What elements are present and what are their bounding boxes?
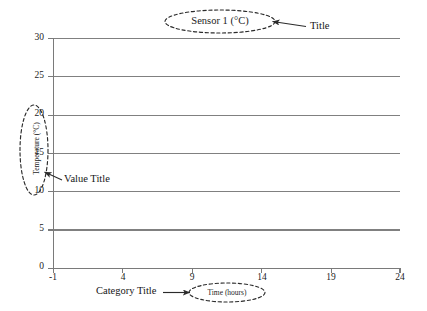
value-title-callout-arrow <box>45 172 63 180</box>
value-title-highlight-ellipse <box>20 105 48 195</box>
title-highlight-ellipse <box>165 10 275 33</box>
category-title-callout-label: Category Title <box>96 285 156 296</box>
value-title-callout-label: Value Title <box>64 173 110 184</box>
title-callout-label: Title <box>310 20 329 31</box>
title-callout-arrow <box>273 22 307 27</box>
chart-figure: 30 25 20 15 10 5 0 -1 4 9 14 19 24 Senso… <box>0 0 427 311</box>
category-title-highlight-ellipse <box>189 283 265 302</box>
annotation-layer <box>0 0 427 311</box>
